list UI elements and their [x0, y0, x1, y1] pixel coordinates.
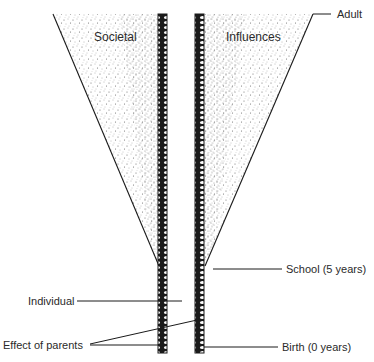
adult-label: Adult	[337, 8, 362, 20]
individual-label: Individual	[28, 295, 74, 307]
societal-influences-diagram	[0, 0, 374, 362]
school-label: School (5 years)	[286, 263, 366, 275]
effect-of-parents-label: Effect of parents	[3, 339, 83, 351]
left-rail	[158, 14, 167, 353]
parents-leader-line-upper	[90, 320, 197, 344]
influences-label: Influences	[226, 31, 281, 43]
right-funnel-region	[204, 14, 313, 266]
birth-label: Birth (0 years)	[282, 341, 351, 353]
right-rail	[195, 14, 204, 353]
societal-label: Societal	[94, 31, 137, 43]
left-funnel-region	[53, 14, 159, 266]
